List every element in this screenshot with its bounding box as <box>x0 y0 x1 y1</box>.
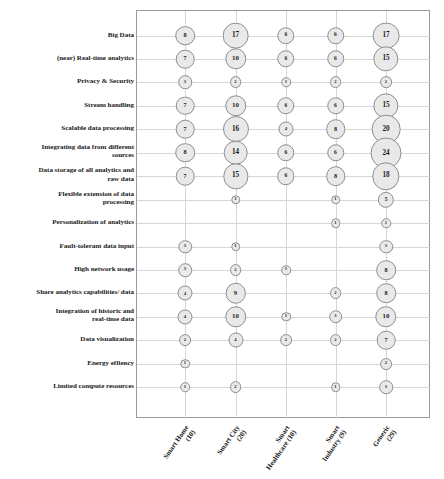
bubble-value-label: 15 <box>232 173 239 180</box>
bubble-data-point: 2 <box>230 381 242 393</box>
bubble-value-label: 2 <box>184 338 186 343</box>
bubble-value-label: 2 <box>234 268 236 273</box>
bubble-value-label: 2 <box>334 291 336 296</box>
gridline-vertical <box>286 11 287 419</box>
bubble-value-label: 1 <box>285 268 287 273</box>
bubble-value-label: 4 <box>234 338 236 343</box>
x-axis-label: Smart Home(10) <box>150 424 198 479</box>
x-axis-label: Smart City(20) <box>200 424 248 479</box>
bubble-data-point: 1 <box>331 218 341 228</box>
gridline-vertical <box>236 11 237 419</box>
bubble-value-label: 7 <box>184 56 187 62</box>
bubble-data-point: 9 <box>225 283 246 304</box>
gridline-vertical <box>336 11 337 419</box>
bubble-value-label: 3 <box>385 244 387 249</box>
bubble-data-point: 8 <box>376 260 396 280</box>
bubble-data-point: 15 <box>223 164 248 189</box>
bubble-value-label: 24 <box>382 149 389 156</box>
bubble-data-point: 7 <box>377 331 396 350</box>
bubble-value-label: 2 <box>334 338 336 343</box>
bubble-data-point: 1 <box>281 312 291 322</box>
bubble-data-point: 1 <box>180 359 190 369</box>
bubble-data-point: 5 <box>378 191 394 207</box>
y-axis-label: Personalization of analytics <box>4 218 134 227</box>
bubble-value-label: 20 <box>382 126 389 133</box>
bubble-data-point: 3 <box>379 240 393 254</box>
bubble-data-point: 1 <box>281 78 291 88</box>
y-axis-label: Data visualization <box>4 335 134 344</box>
bubble-data-point: 1 <box>281 265 291 275</box>
bubble-value-label: 6 <box>285 150 288 156</box>
bubble-value-label: 1 <box>385 221 387 226</box>
bubble-data-point: 6 <box>327 97 344 114</box>
bubble-data-point: 6 <box>277 144 294 161</box>
bubble-data-point: 1 <box>331 383 341 393</box>
bubble-value-label: 16 <box>232 126 239 133</box>
y-axis-label: High network usage <box>4 265 134 274</box>
bubble-data-point: 10 <box>225 48 246 69</box>
bubble-value-label: 8 <box>183 150 186 156</box>
bubble-value-label: 17 <box>382 32 389 39</box>
bubble-value-label: 1 <box>184 362 186 367</box>
bubble-data-point: 2 <box>280 334 292 346</box>
bubble-data-point: 8 <box>376 284 396 304</box>
y-axis-label: Fault-tolerant data input <box>4 241 134 250</box>
bubble-value-label: 8 <box>384 290 387 296</box>
x-axis-label: SmartIndustry (9) <box>300 424 348 479</box>
bubble-data-point: 2 <box>380 77 392 89</box>
bubble-value-label: 17 <box>232 32 239 39</box>
x-axis-label: Generic(29) <box>351 424 399 479</box>
bubble-value-label: 8 <box>334 126 337 132</box>
x-axis-label: SmartHealthcare (10) <box>251 424 299 479</box>
bubble-data-point: 14 <box>223 140 248 165</box>
bubble-data-point: 8 <box>175 143 195 163</box>
bubble-value-label: 1 <box>184 385 186 390</box>
bubble-value-label: 3 <box>385 385 387 390</box>
bubble-value-label: 10 <box>383 313 390 320</box>
bubble-data-point: 4 <box>279 122 294 137</box>
bubble-value-label: 2 <box>234 80 236 85</box>
y-axis-label: Privacy & Security <box>4 77 134 86</box>
bubble-value-label: 7 <box>184 103 187 109</box>
y-axis-label: Energy effiency <box>4 359 134 368</box>
bubble-value-label: 3 <box>334 315 336 320</box>
bubble-value-label: 4 <box>184 291 186 296</box>
bubble-data-point: 6 <box>277 50 294 67</box>
bubble-value-label: 8 <box>183 32 186 38</box>
y-axis-label: Scalable data processing <box>4 124 134 133</box>
bubble-data-point: 8 <box>175 26 195 46</box>
bubble-data-point: 10 <box>225 95 246 116</box>
bubble-data-point: 7 <box>176 167 195 186</box>
bubble-value-label: 1 <box>234 244 236 249</box>
bubble-data-point: 2 <box>179 334 191 346</box>
bubble-data-point: 7 <box>176 120 195 139</box>
bubble-value-label: 18 <box>382 173 389 180</box>
bubble-value-label: 10 <box>232 102 239 109</box>
bubble-value-label: 9 <box>234 290 237 297</box>
bubble-value-label: 6 <box>334 33 337 39</box>
bubble-data-point: 6 <box>327 27 344 44</box>
bubble-data-point: 4 <box>228 333 243 348</box>
bubble-data-point: 1 <box>231 242 241 252</box>
bubble-data-point: 6 <box>327 50 344 67</box>
bubble-data-point: 6 <box>327 144 344 161</box>
bubble-value-label: 2 <box>285 338 287 343</box>
bubble-value-label: 3 <box>184 268 186 273</box>
y-axis-label: Big Data <box>4 30 134 39</box>
bubble-data-point: 2 <box>380 358 392 370</box>
bubble-data-point: 2 <box>330 77 342 89</box>
bubble-value-label: 4 <box>184 314 186 319</box>
bubble-data-point: 6 <box>277 97 294 114</box>
bubble-data-point: 18 <box>372 163 399 190</box>
bubble-value-label: 3 <box>184 80 186 85</box>
bubble-data-point: 2 <box>230 77 242 89</box>
bubble-value-label: 2 <box>385 362 387 367</box>
bubble-data-point: 3 <box>178 76 192 90</box>
bubble-data-point: 3 <box>379 380 393 394</box>
bubble-data-point: 4 <box>178 286 193 301</box>
bubble-value-label: 1 <box>234 197 236 202</box>
bubble-value-label: 1 <box>334 221 336 226</box>
bubble-value-label: 6 <box>334 56 337 62</box>
bubble-data-point: 8 <box>326 120 346 140</box>
bubble-data-point: 8 <box>326 166 346 186</box>
